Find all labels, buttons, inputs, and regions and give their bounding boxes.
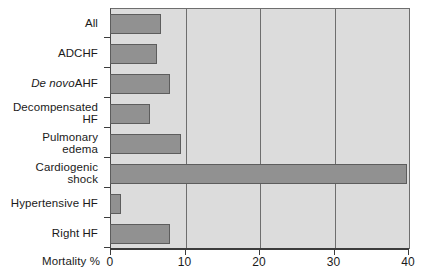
plot-area — [110, 8, 410, 249]
x-axis-title: Mortality % — [0, 255, 100, 267]
bar — [110, 224, 170, 244]
bar-row — [111, 99, 409, 129]
category-label: Cardiogenic shock — [0, 158, 104, 188]
bar — [110, 134, 181, 154]
category-label: Decompensated HF — [0, 98, 104, 128]
category-label: Right HF — [0, 218, 104, 248]
category-label: Hypertensive HF — [0, 188, 104, 218]
bar-row — [111, 159, 409, 189]
bar-row — [111, 9, 409, 39]
bar-chart: AllADCHFDe novo AHFDecompensated HFPulmo… — [0, 0, 422, 279]
bar — [110, 194, 121, 214]
x-axis-tick-labels: 010203040 — [110, 255, 408, 273]
bar-row — [111, 129, 409, 159]
x-axis-tick-label: 30 — [327, 255, 341, 269]
bar — [110, 104, 150, 124]
bar-series — [111, 9, 409, 249]
bar — [110, 164, 407, 184]
bar-row — [111, 219, 409, 249]
bar — [110, 74, 170, 94]
category-label: De novo AHF — [0, 68, 104, 98]
x-axis-tick-label: 20 — [252, 255, 266, 269]
x-axis-tick-label: 40 — [401, 255, 415, 269]
category-label: Pulmonary edema — [0, 128, 104, 158]
category-label: All — [0, 8, 104, 38]
x-axis-tick-label: 0 — [107, 255, 114, 269]
x-axis-tick-label: 10 — [178, 255, 192, 269]
bar-row — [111, 69, 409, 99]
category-label-roman: AHF — [75, 77, 98, 89]
bar — [110, 44, 157, 64]
bar — [110, 14, 161, 34]
category-axis-labels: AllADCHFDe novo AHFDecompensated HFPulmo… — [0, 8, 104, 248]
category-label-italic: De novo — [31, 77, 75, 89]
bar-row — [111, 189, 409, 219]
category-label: ADCHF — [0, 38, 104, 68]
bar-row — [111, 39, 409, 69]
